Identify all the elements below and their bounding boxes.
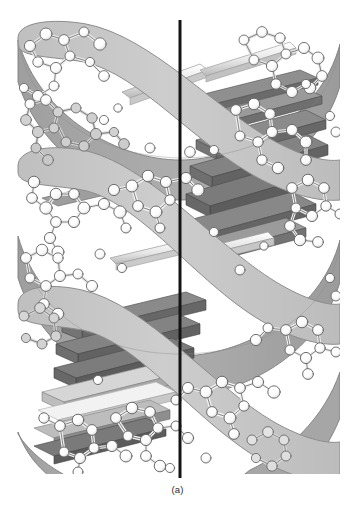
dna-double-helix-illustration [0,0,355,506]
panel-caption: (a) [0,484,355,496]
dna-helix-figure: (a) [0,0,355,506]
